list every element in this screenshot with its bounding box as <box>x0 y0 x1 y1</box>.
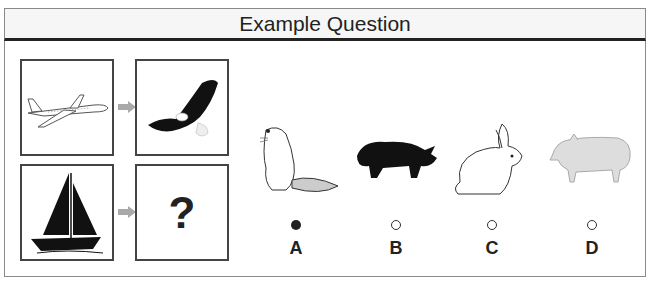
unknown-answer-box: ? <box>135 164 229 261</box>
option-a-label: A <box>286 238 306 259</box>
airplane-icon <box>24 83 110 133</box>
airplane-box <box>20 59 114 156</box>
question-header: Example Question <box>4 8 646 41</box>
question-mark: ? <box>169 188 196 238</box>
eagle-box <box>135 59 229 156</box>
arrow-right-icon <box>118 101 136 113</box>
sailboat-box <box>20 164 114 261</box>
pig-image[interactable] <box>548 132 634 184</box>
option-c-radio[interactable] <box>487 220 497 230</box>
rabbit-image[interactable] <box>452 122 532 198</box>
rhinoceros-image[interactable] <box>355 138 439 182</box>
beaver-image[interactable] <box>256 124 340 194</box>
option-c-label: C <box>482 238 502 259</box>
question-title: Example Question <box>239 12 411 36</box>
eagle-icon <box>142 73 222 143</box>
option-d-label: D <box>582 238 602 259</box>
sailboat-icon <box>27 169 107 257</box>
arrow-right-icon <box>118 206 136 218</box>
option-b-radio[interactable] <box>391 220 401 230</box>
option-a-radio[interactable] <box>291 220 301 230</box>
option-d-radio[interactable] <box>587 220 597 230</box>
option-b-label: B <box>386 238 406 259</box>
